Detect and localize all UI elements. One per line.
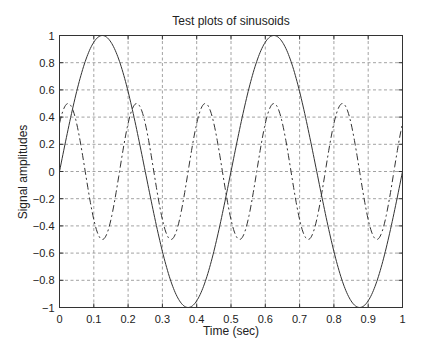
y-tick-label: −0.4 xyxy=(33,220,55,232)
x-tick-label: 1 xyxy=(399,313,405,325)
x-tick-label: 0.6 xyxy=(258,313,273,325)
y-tick-label: 0.2 xyxy=(39,138,54,150)
y-tick-label: 0.4 xyxy=(39,111,54,123)
x-tick-label: 0.3 xyxy=(155,313,170,325)
y-tick-label: 0.8 xyxy=(39,57,54,69)
x-tick-label: 0.4 xyxy=(189,313,204,325)
y-tick-label: −0.6 xyxy=(33,247,55,259)
x-tick-label: 0.2 xyxy=(120,313,135,325)
x-tick-label: 0.8 xyxy=(326,313,341,325)
y-tick-label: 0 xyxy=(48,166,54,178)
x-tick-label: 0.1 xyxy=(86,313,101,325)
x-tick-label: 0.5 xyxy=(223,313,238,325)
y-tick-label: 0.6 xyxy=(39,84,54,96)
x-tick-label: 0.9 xyxy=(361,313,376,325)
x-tick-label: 0 xyxy=(56,313,62,325)
chart-title: Test plots of sinusoids xyxy=(172,14,289,28)
y-tick-label: −1 xyxy=(42,302,55,314)
y-axis-label: Signal amplitudes xyxy=(16,125,30,220)
y-tick-label: 1 xyxy=(48,30,54,42)
x-tick-label: 0.7 xyxy=(292,313,307,325)
y-tick-label: −0.2 xyxy=(33,193,55,205)
y-tick-label: −0.8 xyxy=(33,274,55,286)
sinusoid-chart: Test plots of sinusoids 00.10.20.30.40.5… xyxy=(0,0,423,355)
x-axis-label: Time (sec) xyxy=(203,324,259,338)
